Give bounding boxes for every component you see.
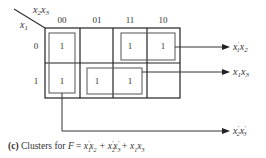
arrow-head-x1-x3: [222, 69, 230, 75]
cell-r1-c00: 1: [60, 76, 65, 86]
column-header-01: 01: [93, 15, 102, 25]
cell-r1-c01: 1: [95, 76, 100, 86]
row-header-1: 1: [34, 76, 39, 86]
karnaugh-map-diagram: x2x3 x1 00 01 11 10 0 1 1 1 1 1 1 1: [0, 0, 266, 158]
cell-r0-c10: 1: [161, 41, 166, 51]
caption-formula-rhs: x1′x2 + x2′x3′ + x1x3: [84, 141, 145, 151]
column-header-00: 00: [58, 15, 68, 25]
kmap-grid: [45, 28, 180, 98]
arrow-head-x1p-x2: [222, 44, 230, 50]
term-label-x1p-x2: x′1x2: [232, 41, 248, 54]
caption-text: Clusters for: [21, 141, 66, 151]
cell-r0-c11: 1: [128, 41, 133, 51]
cell-r0-c00: 1: [60, 41, 65, 51]
column-variable-label: x2x3: [32, 4, 49, 17]
row-header-0: 0: [34, 41, 39, 51]
column-header-10: 10: [159, 15, 169, 25]
term-label-x2p-x3p: x′2x′3: [232, 125, 247, 137]
cell-r1-c11: 1: [128, 76, 133, 86]
figure-caption: (c) Clusters for F = x1′x2 + x2′x3′ + x1…: [8, 140, 144, 153]
arrow-head-x2p-x3p: [222, 128, 230, 134]
term-label-x1-x3: x1x3: [232, 66, 249, 79]
caption-tag: (c): [8, 141, 19, 151]
row-variable-label: x1: [19, 19, 28, 32]
caption-formula-lhs: F: [68, 141, 74, 151]
column-header-11: 11: [126, 15, 135, 25]
